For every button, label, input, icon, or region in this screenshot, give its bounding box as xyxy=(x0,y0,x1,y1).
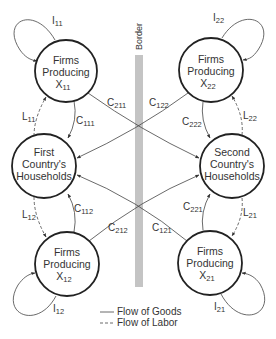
label-c222: C222 xyxy=(182,116,202,129)
svg-text:Firms: Firms xyxy=(198,53,224,65)
svg-text:Second: Second xyxy=(214,146,250,158)
node-firms-x22: Firms Producing X22 xyxy=(179,38,243,102)
node-firms-x11: Firms Producing X11 xyxy=(35,40,97,102)
legend-labor-label: Flow of Labor xyxy=(117,317,178,328)
node-firms-x12: Firms Producing X12 xyxy=(35,232,99,296)
flow-l22-line xyxy=(232,96,242,135)
node-second-households: Second Country's Households xyxy=(200,134,264,198)
border-label: Border xyxy=(134,23,144,50)
svg-text:Firms: Firms xyxy=(53,54,79,66)
two-country-flow-diagram: Border Firms Producing X11 Firms Produci… xyxy=(0,0,276,339)
label-c112: C112 xyxy=(74,203,93,216)
label-i21: I21 xyxy=(214,301,225,314)
label-i22: I22 xyxy=(213,12,224,25)
border-bar xyxy=(135,55,143,287)
node-firms-x21: Firms Producing X21 xyxy=(178,231,242,295)
svg-text:Country's: Country's xyxy=(210,158,254,170)
svg-text:Producing: Producing xyxy=(187,65,234,77)
svg-text:Producing: Producing xyxy=(43,258,90,270)
svg-text:Households: Households xyxy=(16,170,71,182)
node-first-households: First Country's Households xyxy=(12,134,76,198)
flow-c111-line xyxy=(68,101,75,138)
label-c212: C212 xyxy=(108,222,128,235)
svg-text:Country's: Country's xyxy=(22,158,66,170)
legend: Flow of Goods Flow of Labor xyxy=(100,306,181,328)
legend-goods-label: Flow of Goods xyxy=(117,306,181,317)
flow-c222-line xyxy=(202,102,210,138)
flow-c221-line xyxy=(202,194,210,230)
label-i12: I12 xyxy=(53,303,64,316)
svg-text:Households: Households xyxy=(204,170,259,182)
svg-text:Firms: Firms xyxy=(197,245,223,257)
label-l12: L12 xyxy=(22,209,36,222)
label-i11: I11 xyxy=(52,15,63,28)
label-c221: C221 xyxy=(183,201,203,214)
label-c121: C121 xyxy=(152,222,172,235)
flow-l11-line xyxy=(34,97,46,136)
flow-l21-line xyxy=(232,198,242,236)
label-l21: L21 xyxy=(243,207,257,220)
svg-text:Producing: Producing xyxy=(42,66,89,78)
svg-text:Firms: Firms xyxy=(54,246,80,258)
svg-text:First: First xyxy=(34,146,54,158)
label-c122: C122 xyxy=(149,97,169,110)
label-c111: C111 xyxy=(76,115,95,128)
label-l22: L22 xyxy=(243,110,257,123)
svg-text:Producing: Producing xyxy=(186,257,233,269)
label-l11: L11 xyxy=(22,111,35,124)
